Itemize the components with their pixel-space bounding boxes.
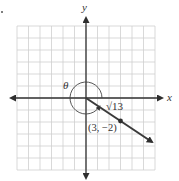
coordinate-plane-svg: [0, 0, 179, 181]
theta-label: θ: [63, 80, 68, 91]
point-3-neg2: [118, 119, 123, 124]
x-axis-label: x: [167, 92, 172, 103]
coordinate-plane-figure: y x θ √13 (3, −2): [0, 0, 179, 181]
y-axis-label: y: [82, 2, 87, 13]
point-coordinate-label: (3, −2): [88, 123, 117, 134]
sqrt13-length-label: √13: [106, 101, 123, 112]
